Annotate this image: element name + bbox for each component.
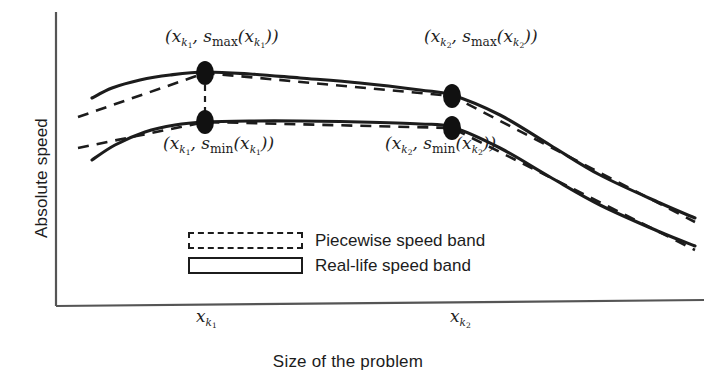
annotation-min-at-k2: (xk2, smin(xk2)) [385,135,496,157]
legend-item-piecewise: Piecewise speed band [188,231,485,250]
legend-label-reallife: Real-life speed band [315,256,471,276]
figure-speed-band-chart: (xk1, smax(xk1)) (xk1, smin(xk1)) (xk2, … [0,0,707,388]
annotation-min-at-k1: (xk1, smin(xk1)) [163,135,274,157]
annotation-max-at-k2: (xk2, smax(xk2)) [424,28,538,50]
legend-swatch-solid-icon [188,257,303,274]
chart-plot-area [0,0,707,388]
marker-max-k1 [196,61,214,85]
chart-legend: Piecewise speed band Real-life speed ban… [188,231,485,275]
x-tick-k2-subsub: 2 [466,321,471,330]
x-axis-title: Size of the problem [228,352,468,372]
x-tick-label-k2: xk2 [450,306,471,330]
x-tick-k2-base: x [450,306,460,326]
y-axis-title: Absolute speed [32,98,52,258]
marker-min-k1 [196,110,214,134]
legend-label-piecewise: Piecewise speed band [315,231,485,251]
legend-item-reallife: Real-life speed band [188,256,485,275]
x-axis-line [56,300,704,306]
legend-swatch-dashed-icon [188,232,303,249]
x-tick-k1-base: x [196,306,206,326]
x-tick-k1-subsub: 1 [212,321,217,330]
x-tick-label-k1: xk1 [196,306,217,330]
annotation-max-at-k1: (xk1, smax(xk1)) [165,28,279,50]
marker-max-k2 [443,84,461,108]
